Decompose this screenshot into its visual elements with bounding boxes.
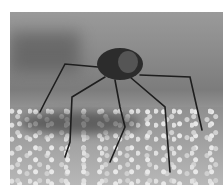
beetle-illustration bbox=[10, 12, 223, 185]
beetle-photo bbox=[10, 12, 223, 185]
